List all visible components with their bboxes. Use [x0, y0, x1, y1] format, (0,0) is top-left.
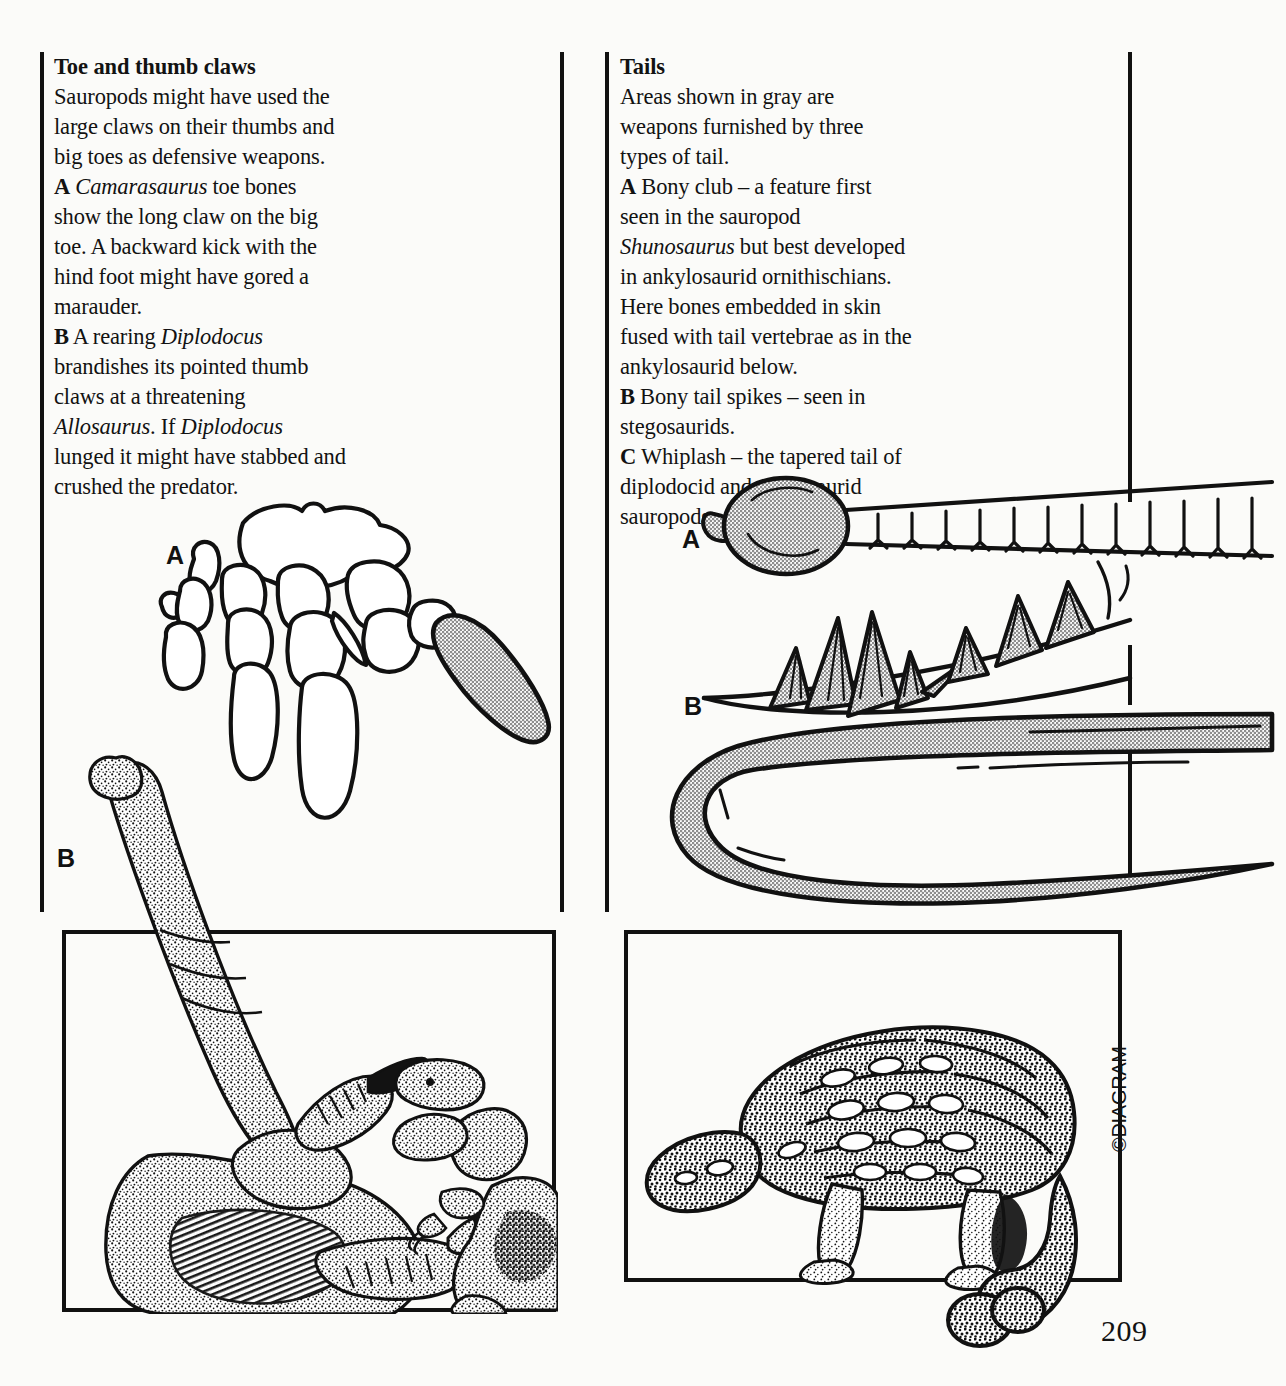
left-column-heading: Toe and thumb claws	[54, 52, 346, 82]
tail-club-figure	[703, 478, 1272, 618]
entry-body-a: Camarasaurus toe bones show the long cla…	[54, 174, 318, 319]
ankylosaur-illustration	[624, 928, 1134, 1348]
column-rule-left	[40, 52, 44, 912]
left-column-entry-a: A Camarasaurus toe bones show the long c…	[54, 172, 346, 322]
tail-spikes-figure	[704, 582, 1130, 716]
tail-entry-label-a: A	[620, 174, 636, 199]
book-page: Toe and thumb claws Sauropods might have…	[0, 0, 1286, 1386]
diplodocus-allosaurus-illustration	[62, 752, 558, 1314]
copyright-notice: ©DIAGRAM	[1108, 1012, 1131, 1152]
tail-entry-label-c: C	[620, 444, 636, 469]
right-column-intro: Areas shown in gray are weapons furnishe…	[620, 82, 912, 172]
ankylosaur-head	[647, 1132, 761, 1211]
right-column-entry-a: A Bony club – a feature first seen in th…	[620, 172, 912, 382]
right-column-entry-b: B Bony tail spikes – seen in stegosaurid…	[620, 382, 912, 442]
tail-entry-body-b: Bony tail spikes – seen in stegosaurids.	[620, 384, 865, 439]
left-column-intro: Sauropods might have used the large claw…	[54, 82, 346, 172]
tail-entry-label-b: B	[620, 384, 635, 409]
left-column-entry-b: B A rearing Diplodocus brandishes its po…	[54, 322, 346, 502]
text-column-left: Toe and thumb claws Sauropods might have…	[54, 52, 346, 502]
column-rule-middle-b	[605, 52, 609, 912]
page-number: 209	[1101, 1314, 1148, 1348]
tail-entry-body-a: Bony club – a feature first seen in the …	[620, 174, 912, 379]
text-column-right: Tails Areas shown in gray are weapons fu…	[620, 52, 912, 532]
right-column-heading: Tails	[620, 52, 912, 82]
entry-label-a: A	[54, 174, 70, 199]
tails-diagram	[660, 470, 1280, 920]
ankylosaur-body	[741, 1027, 1075, 1209]
entry-label-b: B	[54, 324, 69, 349]
entry-body-b: A rearing Diplodocus brandishes its poin…	[54, 324, 346, 499]
gray-claw-highlight	[433, 615, 549, 742]
column-rule-right-top	[1128, 52, 1132, 502]
tail-whiplash-figure	[672, 714, 1272, 903]
tail-club-knob	[948, 1288, 1044, 1346]
